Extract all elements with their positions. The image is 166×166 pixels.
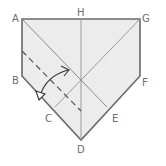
label-h: H [77, 7, 85, 18]
label-a: A [12, 13, 19, 24]
label-f: F [142, 77, 148, 88]
label-g: G [142, 13, 150, 24]
label-d: D [77, 144, 85, 155]
label-b: B [12, 75, 19, 86]
label-c: C [45, 113, 52, 124]
label-e: E [112, 113, 118, 124]
origami-diagram: A H G B F C E D [0, 0, 166, 166]
